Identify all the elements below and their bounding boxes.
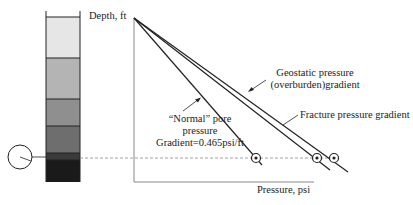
stratum-6: [46, 160, 80, 182]
stratum-3: [46, 99, 80, 126]
strata-column: [46, 11, 80, 182]
geostatic-pressure-label: Geostatic pressure (overburden)gradient: [265, 67, 365, 91]
fracture-pressure-marker: [313, 154, 322, 163]
pressure-gradient-diagram: Depth, ft Pressure, psi “Normal” pore pr…: [0, 0, 413, 205]
diagram-canvas: [0, 0, 413, 205]
normal-pressure-marker: [252, 154, 261, 163]
stratum-5: [46, 153, 80, 160]
stratum-2: [46, 58, 80, 99]
fracture-leader-line: [283, 115, 298, 125]
x-axis-label: Pressure, psi: [257, 184, 310, 196]
stratum-4: [46, 126, 80, 153]
stratum-1: [46, 17, 80, 58]
fracture-pressure-label: Fracture pressure gradient: [300, 109, 410, 121]
geostatic-leader-arrow: [248, 80, 266, 92]
y-axis-label: Depth, ft: [89, 10, 126, 22]
normal-label-line-3: Gradient=0.465psi/ft: [145, 137, 255, 149]
pressure-gauge-icon: [8, 145, 46, 169]
normal-label-line-2: pressure: [145, 125, 255, 137]
geostatic-label-line-2: (overburden)gradient: [265, 79, 365, 91]
geostatic-label-line-1: Geostatic pressure: [265, 67, 365, 79]
normal-leader-arrow: [183, 98, 201, 112]
normal-label-line-1: “Normal” pore: [145, 113, 255, 125]
normal-pore-pressure-label: “Normal” pore pressure Gradient=0.465psi…: [145, 113, 255, 149]
geostatic-pressure-marker: [330, 154, 339, 163]
